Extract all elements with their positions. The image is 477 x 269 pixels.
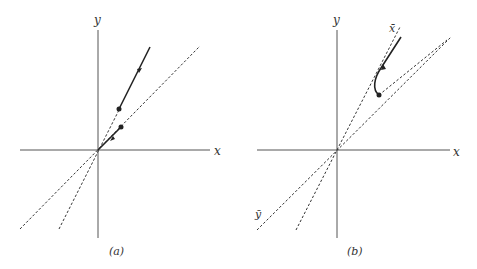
start-point — [119, 125, 124, 130]
y-bar-label: ȳ — [254, 208, 262, 221]
start-point — [377, 93, 382, 98]
invariant-line-steep — [59, 108, 120, 229]
trajectory-curve — [375, 37, 401, 95]
x-axis-label: x — [453, 145, 460, 159]
caption-b: (b) — [347, 245, 363, 258]
y-axis-label: y — [332, 13, 340, 27]
caption-a: (a) — [109, 245, 124, 258]
x-axis-label: x — [214, 144, 221, 158]
x-bar-line — [296, 27, 400, 230]
panel-b: x y x̄ ȳ (b) — [254, 13, 460, 258]
panel-a: x y (a) — [20, 13, 221, 258]
y-axis-label: y — [93, 13, 101, 27]
x-bar-label: x̄ — [389, 22, 396, 35]
figure: x y (a) x y x̄ ȳ (b) — [0, 0, 477, 269]
y-bar-line — [257, 37, 451, 230]
trajectory-outgoing — [119, 47, 150, 109]
trajectory-incoming — [98, 127, 121, 150]
start-point — [117, 107, 122, 112]
